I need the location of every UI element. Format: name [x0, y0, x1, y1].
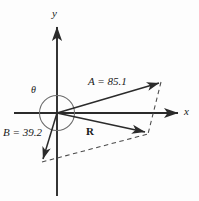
- angle-theta-label: θ: [31, 85, 36, 95]
- vector-b-arrow: [43, 113, 57, 159]
- y-axis-label: y: [52, 8, 57, 19]
- vector-a-arrow: [57, 83, 159, 113]
- vector-b-label: B = 39.2: [3, 127, 42, 138]
- vector-diagram: y x A = 85.1 B = 39.2 R θ: [0, 0, 199, 201]
- diagram-canvas: [0, 0, 199, 201]
- x-axis-label: x: [184, 106, 189, 117]
- vector-r-label: R: [86, 126, 94, 137]
- vector-a-label: A = 85.1: [88, 76, 127, 87]
- vector-r-arrow: [57, 113, 145, 132]
- construction-line-from-a-tip: [148, 82, 161, 134]
